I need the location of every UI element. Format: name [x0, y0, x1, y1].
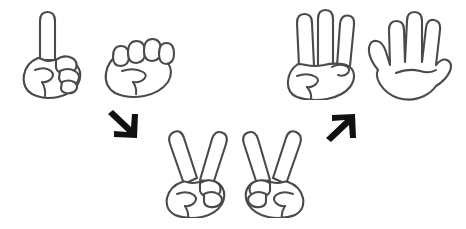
hand-one-finger-icon: [18, 8, 104, 100]
arrow-up-right-icon: [324, 110, 358, 142]
illustration-canvas: Hand gesture counting diagram: [0, 0, 466, 229]
hand-fist-icon: [100, 33, 182, 101]
hand-open-palm-icon: [362, 8, 456, 102]
arrow-down-right-icon: [106, 110, 140, 142]
hand-three-fingers-icon: [284, 8, 370, 100]
hand-two-fingers-mirrored-icon: [228, 126, 310, 218]
